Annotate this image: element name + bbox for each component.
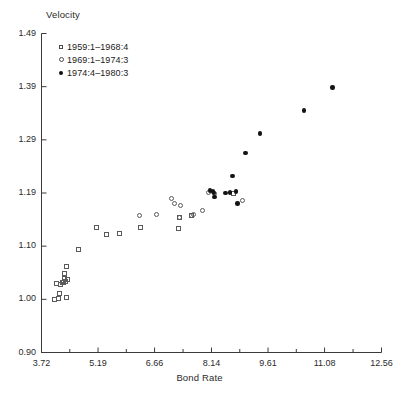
data-point-open-square [64, 264, 69, 269]
data-point-filled-circle [230, 174, 235, 179]
legend-item-label: 1959:1–1968:4 [67, 42, 128, 52]
legend-item: 1974:4–1980:3 [55, 66, 128, 79]
legend-item-label: 1974:4–1980:3 [67, 68, 128, 78]
data-point-open-circle [240, 198, 245, 203]
data-point-filled-circle [258, 131, 263, 136]
legend-item: 1959:1–1968:4 [55, 40, 128, 53]
data-point-open-square [65, 277, 70, 282]
open-circle-marker-icon [55, 57, 67, 62]
data-point-open-square [138, 225, 143, 230]
y-tick-label: 1.49 [6, 28, 36, 38]
open-square-marker-icon [55, 45, 67, 49]
data-point-open-circle [200, 208, 205, 213]
filled-circle-marker-icon [55, 71, 67, 75]
data-point-open-square [176, 226, 181, 231]
data-point-filled-circle [243, 151, 248, 156]
x-tick-label: 6.66 [135, 358, 175, 368]
y-tick-label: 1.29 [6, 134, 36, 144]
data-point-open-square [117, 231, 122, 236]
data-point-filled-circle [330, 85, 335, 90]
x-tick-label: 5.19 [78, 358, 118, 368]
y-tick-label: 0.90 [6, 347, 36, 357]
data-point-open-square [94, 225, 99, 230]
y-tick-label: 1.19 [6, 187, 36, 197]
data-point-open-square [76, 247, 81, 252]
data-point-filled-circle [223, 191, 228, 196]
x-tick-label: 9.61 [248, 358, 288, 368]
data-point-open-circle [172, 201, 177, 206]
x-tick-label: 12.56 [362, 358, 399, 368]
chart-legend: 1959:1–1968:41969:1–1974:31974:4–1980:3 [55, 40, 128, 79]
data-point-open-square [62, 271, 67, 276]
x-tick-label: 11.08 [305, 358, 345, 368]
data-point-open-square [54, 281, 59, 286]
y-tick-label: 1.10 [6, 240, 36, 250]
y-tick-label: 1.39 [6, 81, 36, 91]
data-point-filled-circle [228, 190, 233, 195]
data-point-open-square [64, 295, 69, 300]
data-point-open-square [56, 296, 61, 301]
legend-item-label: 1969:1–1974:3 [67, 55, 128, 65]
data-point-open-square [57, 291, 62, 296]
scatter-plot-figure: Velocity Bond Rate 1.491.391.291.191.101… [0, 0, 399, 396]
data-point-filled-circle [235, 201, 240, 206]
x-tick-label: 8.14 [192, 358, 232, 368]
x-tick-label: 3.72 [22, 358, 62, 368]
data-point-filled-circle [234, 189, 239, 194]
y-tick-label: 1.00 [6, 293, 36, 303]
legend-item: 1969:1–1974:3 [55, 53, 128, 66]
data-point-open-square [104, 232, 109, 237]
